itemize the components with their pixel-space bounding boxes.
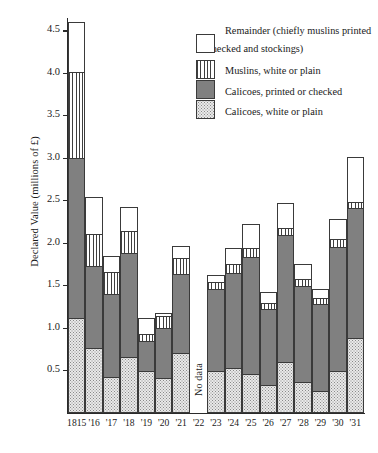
- bar-segment-muslin: [155, 316, 172, 328]
- bar-segment-calwhite: [312, 391, 329, 413]
- legend-item-remainder[interactable]: Remainder (chiefly muslins printed or ch…: [196, 20, 376, 60]
- legend-item-calicoes-white[interactable]: Calicoes, white or plain: [196, 101, 376, 121]
- bar-segment-remainder: [68, 22, 85, 71]
- bar-segment-muslin: [260, 303, 277, 308]
- y-axis-tick-label: 2.0: [28, 236, 60, 247]
- bar-segment-remainder: [242, 224, 259, 249]
- legend-label-muslins: Muslins, white or plain: [225, 62, 321, 76]
- bar-segment-calwhite: [207, 371, 224, 413]
- bar-segment-remainder: [294, 264, 311, 278]
- bar-segment-muslin: [312, 298, 329, 305]
- legend-item-calicoes-printed[interactable]: Calicoes, printed or checked: [196, 81, 376, 101]
- legend: Remainder (chiefly muslins printed or ch…: [196, 20, 376, 121]
- bar-segment-calprint: [68, 158, 85, 318]
- bar-segment-muslin: [207, 282, 224, 289]
- bar-segment-calwhite: [85, 348, 102, 413]
- bar-segment-remainder: [329, 219, 346, 239]
- bar-21[interactable]: [172, 246, 189, 413]
- bar-segment-calwhite: [260, 385, 277, 413]
- bar-segment-muslin: [329, 239, 346, 247]
- y-axis-tick-label: 2.5: [28, 193, 60, 204]
- y-axis-tick-label: 1.5: [28, 278, 60, 289]
- bar-segment-remainder: [277, 203, 294, 228]
- bar-segment-calwhite: [329, 371, 346, 413]
- bar-segment-calprint: [329, 247, 346, 371]
- bar-16[interactable]: [85, 197, 102, 413]
- bar-segment-remainder: [138, 318, 155, 334]
- bar-segment-calwhite: [172, 353, 189, 413]
- bar-segment-calwhite: [138, 371, 155, 413]
- bar-27[interactable]: [277, 203, 294, 413]
- bar-segment-calprint: [85, 266, 102, 348]
- bar-segment-remainder: [260, 292, 277, 304]
- bar-segment-muslin: [85, 234, 102, 266]
- bar-segment-remainder: [207, 275, 224, 282]
- bar-segment-remainder: [172, 246, 189, 259]
- bar-segment-calprint: [242, 257, 259, 374]
- bar-segment-remainder: [120, 207, 137, 232]
- bar-segment-calprint: [277, 235, 294, 362]
- bar-segment-muslin: [294, 279, 311, 286]
- bar-segment-muslin: [172, 258, 189, 273]
- bar-segment-remainder: [85, 197, 102, 234]
- legend-swatch-calicoes-white-icon: [196, 100, 215, 119]
- x-axis-label: '31: [341, 417, 370, 428]
- bar-segment-calwhite: [225, 368, 242, 413]
- no-data-annotation: No data: [193, 363, 204, 396]
- bar-31[interactable]: [347, 157, 364, 413]
- stacked-bar-chart: Declared Value (millions of £) 0.51.01.5…: [0, 0, 378, 453]
- legend-swatch-calicoes-printed-icon: [196, 80, 215, 99]
- bar-26[interactable]: [260, 292, 277, 413]
- y-axis-tick-label: 3.0: [28, 151, 60, 162]
- bar-segment-muslin: [277, 228, 294, 235]
- bar-segment-calprint: [294, 286, 311, 382]
- bar-segment-calprint: [207, 289, 224, 371]
- bar-segment-calprint: [172, 274, 189, 353]
- bar-25[interactable]: [242, 224, 259, 413]
- bar-segment-muslin: [68, 72, 85, 159]
- bar-30[interactable]: [329, 219, 346, 413]
- bar-segment-calwhite: [242, 374, 259, 413]
- bar-segment-calwhite: [68, 318, 85, 413]
- bar-18[interactable]: [120, 207, 137, 413]
- bar-segment-muslin: [347, 202, 364, 207]
- bar-29[interactable]: [312, 289, 329, 413]
- bar-20[interactable]: [155, 313, 172, 413]
- bar-segment-calprint: [120, 253, 137, 357]
- bar-segment-calwhite: [294, 382, 311, 413]
- bar-segment-remainder: [155, 313, 172, 316]
- bar-segment-calprint: [138, 341, 155, 371]
- bar-segment-calwhite: [277, 362, 294, 413]
- bar-segment-calwhite: [347, 338, 364, 413]
- bar-segment-remainder: [103, 256, 120, 272]
- bar-segment-calprint: [260, 309, 277, 385]
- bar-23[interactable]: [207, 275, 224, 413]
- legend-item-muslins[interactable]: Muslins, white or plain: [196, 60, 376, 81]
- bar-19[interactable]: [138, 318, 155, 413]
- bar-segment-calprint: [103, 294, 120, 376]
- bar-segment-calprint: [225, 273, 242, 368]
- bar-segment-muslin: [225, 264, 242, 272]
- legend-label-calicoes-white: Calicoes, white or plain: [225, 104, 323, 117]
- bar-24[interactable]: [225, 248, 242, 413]
- bar-segment-remainder: [225, 248, 242, 264]
- bar-segment-calprint: [347, 208, 364, 339]
- y-axis-tick-label: 3.5: [28, 108, 60, 119]
- legend-swatch-muslins-icon: [196, 60, 215, 79]
- bar-segment-calwhite: [120, 357, 137, 413]
- bar-segment-remainder: [347, 157, 364, 202]
- legend-label-remainder: Remainder (chiefly muslins printed or ch…: [196, 25, 371, 54]
- bar-segment-calprint: [155, 328, 172, 378]
- bar-1815[interactable]: [68, 22, 85, 413]
- bar-28[interactable]: [294, 264, 311, 413]
- y-axis-tick-label: 1.0: [28, 321, 60, 332]
- bar-segment-calprint: [312, 304, 329, 391]
- bar-segment-muslin: [138, 334, 155, 341]
- bar-segment-muslin: [103, 272, 120, 294]
- legend-swatch-remainder-icon: [196, 34, 215, 53]
- legend-label-calicoes-printed: Calicoes, printed or checked: [225, 84, 342, 97]
- bar-17[interactable]: [103, 256, 120, 413]
- bar-segment-remainder: [312, 289, 329, 297]
- x-axis-line: [67, 413, 365, 414]
- bar-segment-calwhite: [103, 377, 120, 414]
